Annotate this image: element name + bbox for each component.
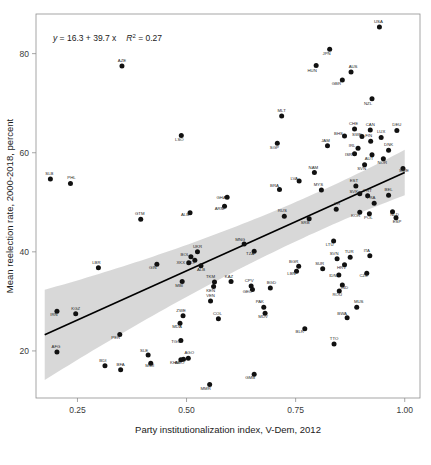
data-point xyxy=(118,367,123,372)
data-point-label: SRB xyxy=(301,220,310,225)
data-point-label: IRL xyxy=(349,143,356,148)
data-point-label: MLT xyxy=(278,108,287,113)
data-point-label: DEU xyxy=(392,122,401,127)
data-point-label: NAM xyxy=(309,165,319,170)
data-point-label: ALB xyxy=(197,267,205,272)
data-point-label: BFA xyxy=(117,362,125,367)
data-point-label: TKM xyxy=(206,274,215,279)
data-point xyxy=(368,127,373,132)
x-tick-label: 1.00 xyxy=(396,405,413,415)
data-point-label: PHL xyxy=(67,175,76,180)
data-point-label: YR xyxy=(334,201,340,206)
data-point xyxy=(394,128,399,133)
data-point xyxy=(195,249,200,254)
data-point-label: KHM xyxy=(170,360,180,365)
data-point-label: SVK xyxy=(349,189,358,194)
data-point xyxy=(336,273,341,278)
data-point xyxy=(325,143,330,148)
data-point xyxy=(119,64,124,69)
data-point-label: MWI xyxy=(145,363,154,368)
data-point-label: CZE xyxy=(359,273,368,278)
data-point-label: PER xyxy=(111,335,120,340)
data-point xyxy=(386,193,391,198)
data-point-label: HRV xyxy=(337,265,346,270)
data-point-label: GEO xyxy=(243,289,253,294)
data-point xyxy=(212,280,217,285)
data-point xyxy=(296,264,301,269)
y-tick-label: 80 xyxy=(20,49,30,59)
data-point xyxy=(229,279,234,284)
data-point-label: AUS xyxy=(349,64,358,69)
data-point-label: ARM xyxy=(215,206,225,211)
data-point xyxy=(356,146,361,151)
data-point-label: AGO xyxy=(185,350,195,355)
data-point-label: SGP xyxy=(270,145,279,150)
data-point-label: IRN xyxy=(50,312,57,317)
plot-canvas: USAJPNHUNAZEAUSGBRNZLMLTCHECANDEULSOBHSL… xyxy=(0,0,431,465)
data-point-label: BRA xyxy=(270,183,279,188)
data-point-label: GMB xyxy=(245,375,255,380)
data-point-label: MDA xyxy=(172,324,182,329)
equation-body: = 16.3 + 39.7 x xyxy=(57,33,117,43)
data-point-label: MYS xyxy=(314,182,323,187)
regression-equation-annotation: y = 16.3 + 39.7 xR2 = 0.27 xyxy=(52,33,162,43)
data-point xyxy=(319,187,324,192)
data-point-label: SLB xyxy=(45,171,53,176)
data-point xyxy=(146,352,151,357)
data-point xyxy=(353,183,358,188)
data-point-label: LTU xyxy=(326,242,334,247)
data-point xyxy=(377,24,382,29)
scatter-plot-figure: USAJPNHUNAZEAUSGBRNZLMLTCHECANDEULSOBHSL… xyxy=(0,0,431,465)
data-point-label: LBN xyxy=(287,271,295,276)
data-point xyxy=(352,151,357,156)
data-point xyxy=(349,69,354,74)
data-point-label: ESP xyxy=(393,219,402,224)
data-point-label: KOR xyxy=(351,213,360,218)
data-point-label: SLE xyxy=(140,348,148,353)
data-point-label: BOL xyxy=(181,252,190,257)
data-point-label: PRT xyxy=(363,188,372,193)
data-point xyxy=(352,126,357,131)
data-point-label: RUS xyxy=(278,208,287,213)
data-point-label: NZL xyxy=(364,101,373,106)
data-point-label: LSO xyxy=(175,137,184,142)
data-point xyxy=(261,305,266,310)
data-point-label: KGZ xyxy=(71,306,80,311)
data-point xyxy=(334,207,339,212)
x-tick-label: 0.75 xyxy=(287,405,304,415)
data-point-label: MDV xyxy=(258,314,268,319)
data-point-label: TUR xyxy=(345,249,354,254)
data-point-label: ISR xyxy=(345,152,352,157)
data-point xyxy=(96,265,101,270)
data-point-label: IND xyxy=(341,285,348,290)
y-tick-label: 20 xyxy=(20,346,30,356)
y-tick-label: 60 xyxy=(20,148,30,158)
data-point-label: AUT xyxy=(365,156,374,161)
data-point-label: ZWE xyxy=(176,308,186,313)
data-point-label: XKX xyxy=(176,260,185,265)
data-point-label: LBR xyxy=(92,260,100,265)
data-point-label: BLR xyxy=(296,329,304,334)
data-point xyxy=(208,298,213,303)
data-point xyxy=(102,363,107,368)
data-point-label: SVN xyxy=(357,166,366,171)
data-point-label: SUR xyxy=(315,261,324,266)
data-point-label: BGD xyxy=(267,280,276,285)
data-point-label: CAN xyxy=(366,122,375,127)
data-point xyxy=(368,139,373,144)
data-point xyxy=(367,253,372,258)
x-axis-title: Party institutionalization index, V-Dem,… xyxy=(135,424,321,435)
data-point-label: BEL xyxy=(385,187,394,192)
data-point xyxy=(73,311,78,316)
data-point-label: CHE xyxy=(349,121,358,126)
data-point-label: AFG xyxy=(52,344,61,349)
data-point-label: JAM xyxy=(321,138,330,143)
data-point-label: ITA xyxy=(364,248,370,253)
data-point xyxy=(216,316,221,321)
data-point xyxy=(345,315,350,320)
data-point-label: FIN xyxy=(365,133,372,138)
data-point xyxy=(379,135,384,140)
data-point-label: AZE xyxy=(118,58,126,63)
data-point-label: PAK xyxy=(256,299,264,304)
data-point xyxy=(54,349,59,354)
